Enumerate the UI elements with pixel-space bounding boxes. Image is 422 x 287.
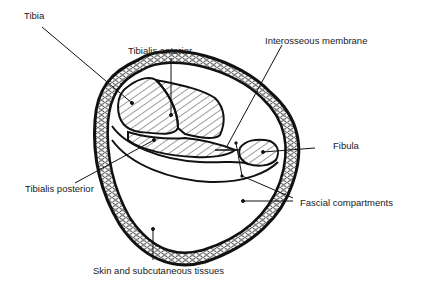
leg-cross-section-diagram: Tibia Tibialis anterior Interosseous mem… <box>0 0 422 287</box>
label-fascial-compartments: Fascial compartments <box>300 197 393 208</box>
label-tibialis-posterior: Tibialis posterior <box>25 183 94 194</box>
label-skin-subcutaneous: Skin and subcutaneous tissues <box>93 265 224 276</box>
label-tibialis-anterior: Tibialis anterior <box>128 45 192 56</box>
label-interosseous-membrane: Interosseous membrane <box>265 35 367 46</box>
label-tibia: Tibia <box>24 10 44 21</box>
fibula-bone <box>239 140 278 166</box>
label-fibula: Fibula <box>333 140 359 151</box>
